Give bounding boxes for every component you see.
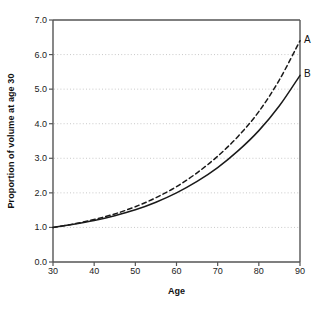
plot-area xyxy=(0,0,331,314)
axis-spine-group xyxy=(53,20,300,262)
tick-mark-group xyxy=(49,20,300,266)
data-curve-group xyxy=(53,41,300,228)
data-curve-b xyxy=(53,75,300,227)
series-label-b: B xyxy=(304,68,311,79)
gridline-group xyxy=(54,55,299,228)
chart-figure: Proportion of volume at age 30 0.0 1.0 2… xyxy=(0,0,331,314)
data-curve-a xyxy=(53,41,300,228)
series-label-a: A xyxy=(304,34,311,45)
